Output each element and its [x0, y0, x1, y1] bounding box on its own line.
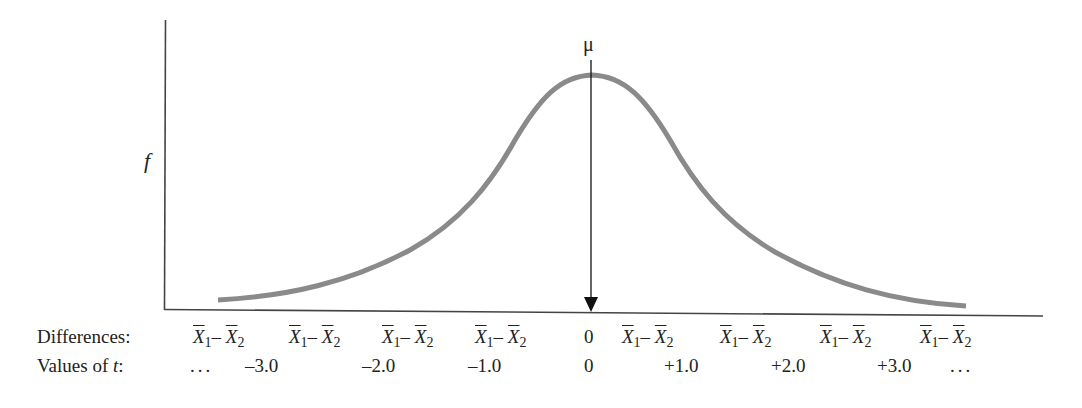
t-value: +1.0 — [664, 356, 698, 375]
difference-label: X1– X2 — [289, 327, 340, 350]
difference-label: X1– X2 — [820, 327, 871, 350]
t-value: –3.0 — [245, 356, 278, 375]
y-axis — [165, 20, 166, 310]
difference-zero: 0 — [584, 327, 594, 346]
x-axis — [164, 310, 1043, 317]
t-value-ellipsis-right: ... — [950, 356, 973, 375]
difference-label: X1– X2 — [382, 327, 433, 350]
t-distribution-curve — [218, 75, 966, 306]
mean-arrow-head — [584, 297, 598, 312]
t-value: –2.0 — [362, 356, 395, 375]
t-value: 0 — [584, 356, 594, 375]
t-values-row-label: Values of t: — [37, 356, 124, 375]
difference-label: X1– X2 — [920, 327, 971, 350]
t-value-ellipsis-left: ... — [190, 356, 213, 375]
difference-label: X1– X2 — [622, 327, 673, 350]
t-value: +3.0 — [877, 356, 911, 375]
differences-row-label: Differences: — [37, 327, 131, 346]
t-values-prefix: Values of — [37, 355, 113, 376]
difference-label: X1– X2 — [475, 327, 526, 350]
difference-label: X1– X2 — [193, 327, 244, 350]
mean-label: μ — [583, 34, 594, 54]
t-value: +2.0 — [771, 356, 805, 375]
difference-label: X1– X2 — [720, 327, 771, 350]
t-value: –1.0 — [468, 356, 501, 375]
y-axis-label: f — [144, 150, 150, 172]
t-values-suffix: : — [118, 355, 123, 376]
